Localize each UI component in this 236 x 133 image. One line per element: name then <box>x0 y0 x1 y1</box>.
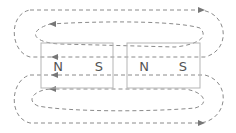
magnet-1-north-label: N <box>53 59 63 74</box>
magnet-1-south-label: S <box>95 59 103 74</box>
magnet-2-north-label: N <box>139 59 149 74</box>
magnet-2-south-label: S <box>179 59 187 74</box>
magnet-field-diagram: N S N S <box>0 0 236 133</box>
arrow-left-icon <box>49 86 56 92</box>
arrow-right-icon <box>198 120 205 126</box>
arrow-left-icon <box>49 21 56 27</box>
arrow-right-icon <box>198 7 205 13</box>
field-line-inner-bottom <box>32 89 204 111</box>
field-line-outer-bottom <box>14 75 223 123</box>
magnet-2 <box>127 43 200 88</box>
field-line-outer-top <box>14 10 223 57</box>
